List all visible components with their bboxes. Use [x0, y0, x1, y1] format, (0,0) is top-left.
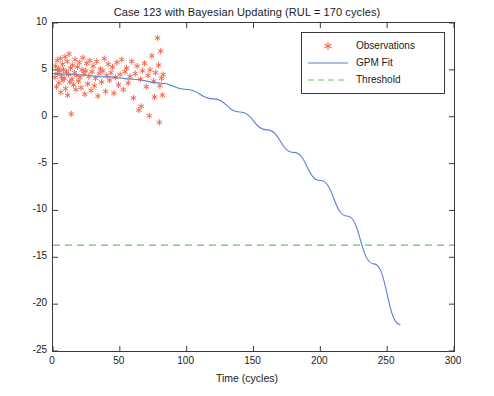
legend: Observations GPM Fit Threshold: [301, 32, 445, 94]
y-tick-label: 10: [18, 16, 47, 27]
y-tick-label: -10: [18, 203, 47, 214]
y-tick-label: 0: [18, 110, 47, 121]
gpm-fit-line-icon: [307, 57, 349, 69]
x-tick-label: 100: [171, 355, 201, 366]
x-tick-label: 200: [304, 355, 334, 366]
threshold-line-icon: [307, 74, 349, 86]
x-axis-label: Time (cycles): [0, 372, 494, 384]
legend-label-threshold: Threshold: [356, 74, 400, 85]
x-tick-label: 150: [238, 355, 268, 366]
observations-marker-icon: [307, 40, 349, 52]
x-tick-label: 250: [371, 355, 401, 366]
y-tick-label: -20: [18, 297, 47, 308]
legend-item-threshold: Threshold: [307, 71, 439, 88]
y-tick-label: -5: [18, 157, 47, 168]
legend-label-observations: Observations: [356, 40, 415, 51]
chart-title: Case 123 with Bayesian Updating (RUL = 1…: [0, 6, 494, 18]
x-tick-label: 300: [438, 355, 468, 366]
legend-item-observations: Observations: [307, 37, 439, 54]
y-tick-label: 5: [18, 63, 47, 74]
legend-label-gpm-fit: GPM Fit: [356, 57, 393, 68]
plot-axes: Observations GPM Fit Threshold: [52, 22, 455, 352]
y-tick-label: -15: [18, 250, 47, 261]
legend-item-gpm-fit: GPM Fit: [307, 54, 439, 71]
x-tick-label: 0: [37, 355, 67, 366]
figure: Case 123 with Bayesian Updating (RUL = 1…: [0, 0, 494, 396]
y-tick-label: -25: [18, 344, 47, 355]
x-tick-label: 50: [104, 355, 134, 366]
